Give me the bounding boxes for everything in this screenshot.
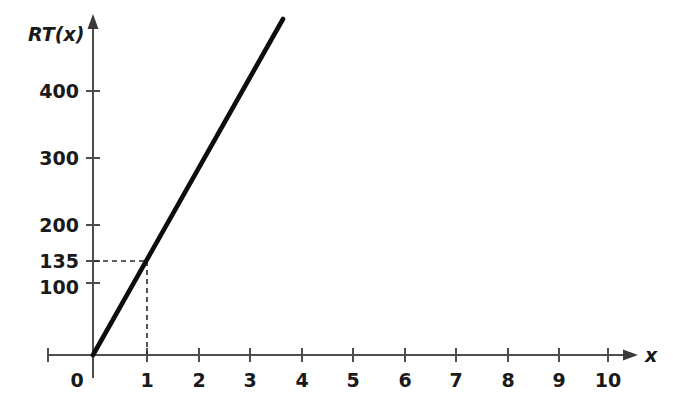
y-tick-label: 300 <box>39 147 79 169</box>
data-series-line <box>93 19 283 355</box>
x-tick-labels: 0 1 2 3 4 5 6 7 8 9 10 <box>70 369 621 391</box>
x-tick-label: 9 <box>552 369 565 391</box>
line-chart: RT(x) 400 300 200 135 100 x <box>0 0 673 413</box>
y-tick-label: 200 <box>39 214 79 236</box>
chart-figure: RT(x) 400 300 200 135 100 x <box>0 0 673 413</box>
x-tick-label: 8 <box>501 369 514 391</box>
y-tick-labels: 400 300 200 135 100 <box>39 80 79 298</box>
x-tick-label: 3 <box>243 369 256 391</box>
x-axis <box>48 350 638 361</box>
x-tick-label: 2 <box>192 369 205 391</box>
x-tick-label: 4 <box>295 369 308 391</box>
x-axis-title: x <box>644 344 658 366</box>
y-tick-label-135: 135 <box>39 250 79 272</box>
x-tick-label: 1 <box>140 369 153 391</box>
x-tick-label: 5 <box>346 369 359 391</box>
x-tick-label: 7 <box>449 369 462 391</box>
y-axis-arrow-icon <box>88 14 99 29</box>
y-tick-label: 400 <box>39 80 79 102</box>
x-tick-label-origin: 0 <box>70 369 83 391</box>
x-axis-arrow-icon <box>623 350 638 361</box>
y-axis-title: RT(x) <box>28 23 84 45</box>
x-tick-label: 10 <box>595 369 621 391</box>
y-tick-label: 100 <box>39 276 79 298</box>
x-tick-label: 6 <box>398 369 411 391</box>
y-axis <box>88 14 99 378</box>
